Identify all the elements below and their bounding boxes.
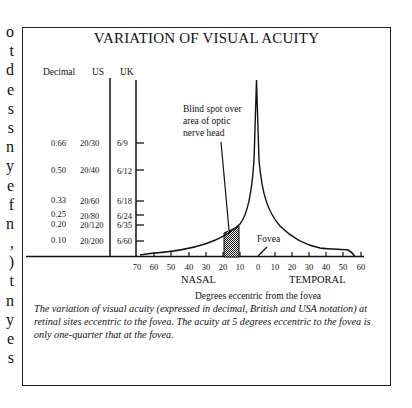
temporal-label: TEMPORAL xyxy=(289,274,346,286)
x-tick-label: 30 xyxy=(198,262,214,272)
blind-spot-pointer xyxy=(221,142,229,230)
fovea-pointer xyxy=(258,247,267,256)
fovea-label: Fovea xyxy=(257,233,280,245)
blind-spot-label: Blind spot over area of optic nerve head xyxy=(183,103,242,139)
blind-spot-label-line: nerve head xyxy=(183,127,242,139)
x-tick-label: 0 xyxy=(250,262,266,272)
x-tick-label: 50 xyxy=(335,262,351,272)
y-axis-ticks xyxy=(136,143,144,241)
x-tick-label: 60 xyxy=(146,262,162,272)
x-tick-label: 70 xyxy=(129,262,145,272)
figure-caption: The variation of visual acuity (expresse… xyxy=(34,302,384,341)
x-tick-label: 20 xyxy=(215,262,231,272)
x-tick-label: 40 xyxy=(318,262,334,272)
x-tick-label: 50 xyxy=(163,262,179,272)
x-tick-label: 40 xyxy=(181,262,197,272)
x-axis-title: Degrees eccentric from the fovea xyxy=(195,290,321,302)
x-tick-label: 30 xyxy=(301,262,317,272)
x-tick-label: 10 xyxy=(267,262,283,272)
chart-plot xyxy=(0,0,412,408)
x-tick-label: 20 xyxy=(284,262,300,272)
blind-spot-label-line: area of optic xyxy=(183,115,242,127)
nasal-label: NASAL xyxy=(181,274,216,286)
blind-spot-label-line: Blind spot over xyxy=(183,103,242,115)
x-tick-label: 10 xyxy=(232,262,248,272)
acuity-curve xyxy=(140,80,355,257)
x-tick-label: 60 xyxy=(353,262,369,272)
